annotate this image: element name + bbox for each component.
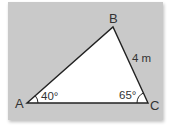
side-label-bc: 4 m: [132, 52, 151, 64]
triangle-figure: A B C 4 m 40° 65°: [0, 0, 169, 126]
vertex-label-c: C: [150, 98, 159, 113]
angle-label-a: 40°: [41, 90, 58, 102]
vertex-label-b: B: [109, 11, 118, 26]
vertex-label-a: A: [15, 96, 24, 111]
angle-label-c: 65°: [119, 89, 136, 101]
